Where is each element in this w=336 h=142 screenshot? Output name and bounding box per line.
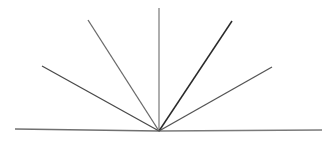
angle-fan-diagram (0, 0, 336, 142)
baseline-right (159, 130, 322, 131)
figure-canvas (0, 0, 336, 142)
